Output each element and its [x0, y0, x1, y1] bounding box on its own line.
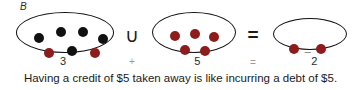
counter-dot-red	[289, 44, 299, 54]
counter-dot-black	[67, 46, 78, 57]
counter-dot-black	[34, 33, 45, 44]
counter-dot-red	[209, 32, 220, 43]
second-value-digit: 5	[194, 55, 200, 67]
union-operator: ∪	[122, 26, 142, 45]
set-result-ellipse	[273, 18, 347, 50]
number-line-set-figure: B ∪ = 3 + ¯5 = ¯2 Having a credit of $5 …	[0, 0, 361, 90]
negative-sign-result: ¯	[305, 51, 311, 63]
counter-dot-red	[190, 29, 201, 40]
counter-dot-red	[90, 48, 101, 59]
set-negative-five-ellipse	[152, 12, 236, 53]
counter-dot-red	[316, 44, 326, 54]
counter-dot-red	[170, 31, 181, 42]
equals-operator: =	[243, 25, 263, 44]
label-second-value: ¯5	[179, 56, 209, 67]
counter-dot-black	[56, 27, 67, 38]
counter-dot-black	[98, 34, 109, 45]
result-value-digit: 2	[311, 55, 317, 67]
figure-caption: Having a credit of $5 taken away is like…	[0, 72, 361, 85]
negative-sign-second: ¯	[188, 51, 194, 63]
label-result-value: ¯2	[296, 56, 326, 67]
set-b-ellipse	[16, 12, 114, 53]
label-first-value: 3	[48, 56, 78, 67]
counter-dot-black	[78, 27, 89, 38]
plus-operator-small: +	[122, 57, 142, 67]
set-b-label: B	[20, 2, 27, 12]
counter-dot-red	[200, 46, 211, 57]
equals-operator-small: =	[243, 58, 263, 68]
